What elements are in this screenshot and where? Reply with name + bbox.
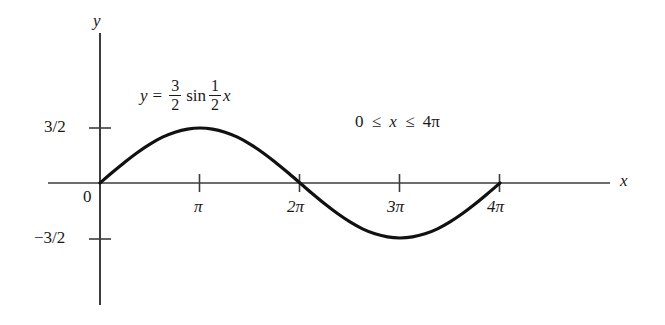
x-tick-label-4pi: 4π	[487, 198, 504, 215]
equation-annotation: y = 3 2 sin 1 2 x	[140, 78, 231, 114]
equation-lhs: y	[140, 87, 148, 104]
y-tick-label-negative: −3/2	[34, 229, 65, 246]
amplitude-numerator: 3	[169, 78, 181, 95]
equation-equals: =	[153, 87, 163, 104]
origin-label: 0	[83, 188, 92, 205]
domain-annotation: 0 ≤ x ≤ 4π	[355, 113, 440, 130]
sine-function-name: sin	[186, 87, 206, 104]
plot-canvas	[0, 0, 665, 325]
domain-upper-bound: 4π	[423, 112, 440, 131]
equation-variable: x	[223, 87, 231, 104]
domain-variable: x	[389, 112, 397, 131]
domain-relation-left: ≤	[372, 112, 381, 131]
x-tick-label-2pi: 2π	[287, 198, 304, 215]
x-tick-label-pi: π	[194, 198, 203, 215]
amplitude-fraction: 3 2	[169, 78, 181, 114]
frequency-numerator: 1	[209, 78, 221, 95]
amplitude-denominator: 2	[169, 95, 181, 113]
frequency-fraction: 1 2	[209, 78, 221, 114]
y-tick-label-positive: 3/2	[44, 118, 66, 135]
x-tick-label-3pi: 3π	[387, 198, 404, 215]
x-axis-label: x	[620, 172, 628, 189]
sine-graph-figure: y x 0 3/2 −3/2 π 2π 3π 4π y = 3 2 sin 1 …	[0, 0, 665, 325]
y-axis-label: y	[93, 12, 101, 29]
domain-relation-right: ≤	[405, 112, 414, 131]
domain-lower-bound: 0	[355, 112, 364, 131]
frequency-denominator: 2	[209, 95, 221, 113]
